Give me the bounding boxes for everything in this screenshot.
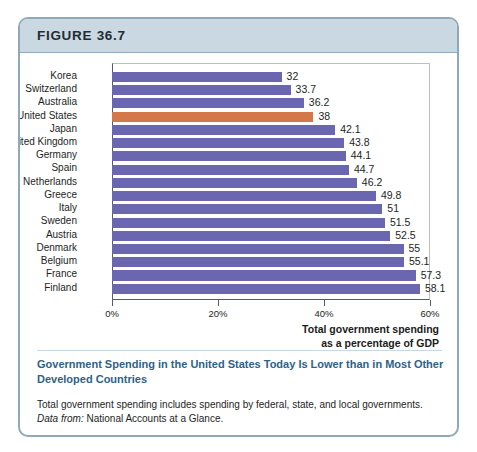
bar-row: United States38 xyxy=(112,110,430,123)
bar xyxy=(112,231,390,241)
caption-body: Total government spending includes spend… xyxy=(37,398,445,426)
category-label: Japan xyxy=(50,123,77,134)
x-axis-tick xyxy=(324,300,325,306)
bar-row: Belgium55.1 xyxy=(112,256,430,269)
bar xyxy=(112,138,344,148)
category-label: Korea xyxy=(50,70,77,81)
category-label: Greece xyxy=(44,189,77,200)
bar xyxy=(112,244,404,254)
category-label: Germany xyxy=(36,149,77,160)
bar-row: United Kingdom43.8 xyxy=(112,136,430,149)
bar-value-label: 51.5 xyxy=(390,216,410,228)
bar xyxy=(112,112,313,122)
bar-row: Austria52.5 xyxy=(112,229,430,242)
bar-value-label: 44.1 xyxy=(351,149,371,161)
bar-row: Australia36.2 xyxy=(112,97,430,110)
caption-block: Government Spending in the United States… xyxy=(37,357,445,426)
bar-value-label: 55.1 xyxy=(409,255,429,267)
bar xyxy=(112,85,291,95)
category-label: Sweden xyxy=(41,215,77,226)
bar-value-label: 57.3 xyxy=(421,269,441,281)
x-axis-tick-label: 40% xyxy=(314,308,333,319)
category-label: Austria xyxy=(46,229,77,240)
bar xyxy=(112,257,404,267)
x-axis-title-line1: Total government spending xyxy=(302,323,439,337)
bar-row: Korea32 xyxy=(112,70,430,83)
bar xyxy=(112,151,346,161)
bar-row: Greece49.8 xyxy=(112,189,430,202)
x-axis-tick-label: 60% xyxy=(420,308,439,319)
caption-source-label: Data from: xyxy=(37,413,84,424)
bar xyxy=(112,125,335,135)
bar-value-label: 36.2 xyxy=(309,96,329,108)
bar xyxy=(112,218,385,228)
bar xyxy=(112,191,376,201)
x-axis-title: Total government spending as a percentag… xyxy=(302,323,439,350)
bar-row: France57.3 xyxy=(112,269,430,282)
category-label: Finland xyxy=(44,282,77,293)
bar-row: Switzerland33.7 xyxy=(112,84,430,97)
bar xyxy=(112,72,282,82)
bar xyxy=(112,165,349,175)
bar-row: Finland58.1 xyxy=(112,282,430,295)
caption-source-text: National Accounts at a Glance. xyxy=(86,413,223,424)
bar-value-label: 49.8 xyxy=(381,189,401,201)
bar-value-label: 58.1 xyxy=(425,282,445,294)
category-label: United Kingdom xyxy=(18,136,77,147)
bar-value-label: 38 xyxy=(318,110,330,122)
figure-header-band: FIGURE 36.7 xyxy=(20,19,457,53)
bar-row: Denmark55 xyxy=(112,242,430,255)
bar xyxy=(112,178,357,188)
bar xyxy=(112,98,304,108)
category-label: Spain xyxy=(51,162,77,173)
bar-value-label: 51 xyxy=(387,202,399,214)
x-axis-title-line2: as a percentage of GDP xyxy=(302,337,439,351)
figure-card: FIGURE 36.7 Korea32Switzerland33.7Austra… xyxy=(18,17,459,437)
category-label: Switzerland xyxy=(25,83,77,94)
category-label: Belgium xyxy=(41,255,77,266)
bar-value-label: 32 xyxy=(287,70,299,82)
category-label: Italy xyxy=(59,202,77,213)
bar-value-label: 43.8 xyxy=(349,136,369,148)
caption-source-line: Data from: National Accounts at a Glance… xyxy=(37,412,445,426)
category-label: Denmark xyxy=(36,242,77,253)
bar-value-label: 42.1 xyxy=(340,123,360,135)
caption-headline: Government Spending in the United States… xyxy=(37,357,445,387)
bar-value-label: 33.7 xyxy=(296,83,316,95)
category-label: Netherlands xyxy=(23,176,77,187)
bar-row: Italy51 xyxy=(112,203,430,216)
bar-row: Germany44.1 xyxy=(112,150,430,163)
bar-value-label: 46.2 xyxy=(362,176,382,188)
bars-layer: Korea32Switzerland33.7Australia36.2Unite… xyxy=(112,63,430,300)
caption-body-text: Total government spending includes spend… xyxy=(37,398,445,412)
bar-row: Japan42.1 xyxy=(112,123,430,136)
bar-value-label: 55 xyxy=(409,242,421,254)
figure-number-label: FIGURE 36.7 xyxy=(37,28,126,43)
bar-value-label: 52.5 xyxy=(395,229,415,241)
category-label: France xyxy=(46,268,77,279)
x-axis-tick xyxy=(430,300,431,306)
category-label: United States xyxy=(18,110,77,121)
bar-row: Netherlands46.2 xyxy=(112,176,430,189)
x-axis-tick xyxy=(112,300,113,306)
x-axis-tick-label: 20% xyxy=(208,308,227,319)
bar-chart: Korea32Switzerland33.7Australia36.2Unite… xyxy=(20,53,459,346)
x-axis-tick-label: 0% xyxy=(105,308,119,319)
bar-value-label: 44.7 xyxy=(354,163,374,175)
category-label: Australia xyxy=(38,96,77,107)
bar-row: Sweden51.5 xyxy=(112,216,430,229)
bar xyxy=(112,284,420,294)
caption-divider xyxy=(37,350,442,351)
bar-row: Spain44.7 xyxy=(112,163,430,176)
x-axis-tick xyxy=(218,300,219,306)
bar xyxy=(112,270,416,280)
bar xyxy=(112,204,382,214)
